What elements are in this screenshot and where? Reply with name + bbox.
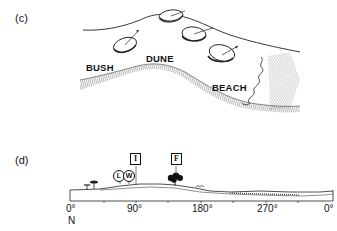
north-label: N (68, 215, 75, 226)
compass-disc-2 (158, 8, 185, 23)
marker-i: I (130, 153, 141, 165)
axis-tick-90: 90° (127, 203, 142, 214)
axis-tick-360: 0° (324, 203, 334, 214)
marker-w: W (123, 170, 135, 182)
compass-disc-3 (181, 25, 213, 42)
compass-discs (111, 8, 238, 64)
compass-disc-1 (111, 30, 139, 56)
zone-label-dune: DUNE (146, 53, 174, 64)
axis-tick-180: 180° (192, 203, 213, 214)
large-tree-icon (168, 173, 183, 187)
marker-f: F (171, 153, 182, 165)
axis-tick-0: 0° (66, 203, 76, 214)
axis-tick-270: 270° (257, 203, 278, 214)
zone-label-bush: BUSH (86, 62, 114, 73)
panel-c-label: (c) (15, 12, 28, 24)
compass-disc-4 (207, 42, 238, 64)
zone-label-beach: BEACH (212, 82, 247, 93)
panel-d-label: (d) (15, 154, 28, 166)
palm-tree-icon (90, 180, 98, 189)
diagram-drawing (0, 0, 337, 231)
panorama-skyline (70, 166, 333, 203)
